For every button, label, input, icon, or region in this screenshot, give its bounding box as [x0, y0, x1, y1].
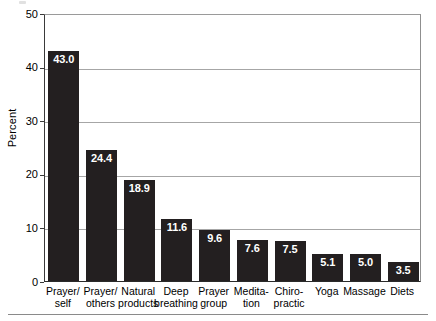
y-axis-tick-label: 30 — [8, 116, 38, 127]
plot-area: 43.024.418.911.69.67.67.55.15.03.5 — [44, 14, 421, 282]
bar[interactable]: 7.6 — [237, 240, 268, 281]
bar-value-label: 7.6 — [237, 242, 268, 255]
bar[interactable]: 18.9 — [124, 180, 155, 281]
bar-group[interactable]: 5.0 — [350, 254, 381, 281]
bar-group[interactable]: 24.4 — [86, 150, 117, 281]
bar-value-label: 24.4 — [86, 152, 117, 165]
bar-group[interactable]: 9.6 — [199, 230, 230, 281]
bar-group[interactable]: 5.1 — [312, 254, 343, 281]
bar-value-label: 5.0 — [350, 256, 381, 269]
bar[interactable]: 11.6 — [161, 219, 192, 281]
x-axis-label-group: Prayer/selfPrayer/othersNaturalproductsD… — [44, 285, 421, 315]
y-axis-tick-label: 20 — [8, 169, 38, 180]
bar-group[interactable]: 7.5 — [275, 241, 306, 281]
bar-value-label: 18.9 — [124, 182, 155, 195]
bar[interactable]: 43.0 — [48, 51, 79, 281]
x-axis-category-line: practic — [267, 297, 311, 309]
bar-value-label: 9.6 — [199, 232, 230, 245]
y-axis-tick-label: 10 — [8, 223, 38, 234]
bar-group[interactable]: 7.6 — [237, 240, 268, 281]
y-axis-tick-mark — [40, 282, 44, 283]
bar[interactable]: 5.0 — [350, 254, 381, 281]
bar[interactable]: 24.4 — [86, 150, 117, 281]
bar-series: 43.024.418.911.69.67.67.55.15.03.5 — [45, 15, 420, 281]
bar-group[interactable]: 43.0 — [48, 51, 79, 281]
bar-value-label: 7.5 — [275, 243, 306, 256]
bar[interactable]: 5.1 — [312, 254, 343, 281]
x-axis-category-label: Diets — [380, 285, 424, 297]
bar[interactable]: 7.5 — [275, 241, 306, 281]
y-axis-tick-label: 40 — [8, 62, 38, 73]
bar[interactable]: 3.5 — [388, 262, 419, 281]
y-axis-tick-label: 50 — [8, 9, 38, 20]
scan-artifact-smudge — [19, 1, 26, 4]
bottom-divider — [8, 314, 428, 315]
bar-group[interactable]: 3.5 — [388, 262, 419, 281]
bar-group[interactable]: 11.6 — [161, 219, 192, 281]
bar-group[interactable]: 18.9 — [124, 180, 155, 281]
bar-value-label: 5.1 — [312, 256, 343, 269]
x-axis-category-line: Diets — [380, 285, 424, 297]
bar-value-label: 3.5 — [388, 264, 419, 277]
y-axis-title: Percent — [6, 92, 18, 164]
bar[interactable]: 9.6 — [199, 230, 230, 281]
y-axis-tick-label: 0 — [8, 277, 38, 288]
bar-value-label: 43.0 — [48, 53, 79, 66]
bar-value-label: 11.6 — [161, 221, 192, 234]
bar-chart-figure: Percent 01020304050 43.024.418.911.69.67… — [0, 0, 436, 321]
